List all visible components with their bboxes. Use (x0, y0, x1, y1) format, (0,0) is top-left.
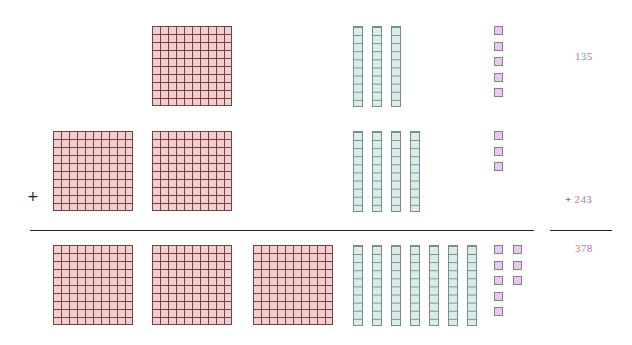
hundred-flat (152, 26, 232, 106)
ten-rod (448, 245, 458, 326)
ten-rod (353, 26, 363, 107)
one-unit (513, 261, 522, 270)
ten-rod (391, 245, 401, 326)
one-unit (494, 26, 503, 35)
one-unit (494, 147, 503, 156)
addend-1-number: 135 (575, 50, 592, 62)
ones-digit: 5 (587, 50, 593, 62)
ones-digit: 8 (587, 242, 593, 254)
one-unit (494, 57, 503, 66)
one-unit (513, 245, 522, 254)
ten-rod (353, 245, 363, 326)
ten-rod (410, 131, 420, 212)
one-unit (494, 42, 503, 51)
hundred-flat (152, 131, 232, 211)
one-unit (494, 131, 503, 140)
hundred-flat (53, 131, 133, 211)
sum-line-numbers (550, 230, 612, 231)
ten-rod (467, 245, 477, 326)
one-unit (494, 307, 503, 316)
ten-rod (391, 131, 401, 212)
ten-rod (372, 131, 382, 212)
hundred-flat (152, 245, 232, 325)
one-unit (494, 88, 503, 97)
plus-sign: + (27, 188, 39, 204)
one-unit (494, 276, 503, 285)
addend-2-number: + 243 (565, 193, 592, 205)
hundred-flat (253, 245, 333, 325)
ten-rod (391, 26, 401, 107)
sum-number: 378 (575, 242, 592, 254)
one-unit (513, 276, 522, 285)
plus-sign-small: + (565, 193, 572, 205)
sum-line-blocks (30, 230, 534, 231)
one-unit (494, 162, 503, 171)
one-unit (494, 73, 503, 82)
one-unit (494, 261, 503, 270)
ten-rod (410, 245, 420, 326)
one-unit (494, 245, 503, 254)
ten-rod (372, 26, 382, 107)
ten-rod (353, 131, 363, 212)
one-unit (494, 292, 503, 301)
hundred-flat (53, 245, 133, 325)
ten-rod (372, 245, 382, 326)
ones-digit: 3 (586, 193, 592, 205)
ten-rod (429, 245, 439, 326)
